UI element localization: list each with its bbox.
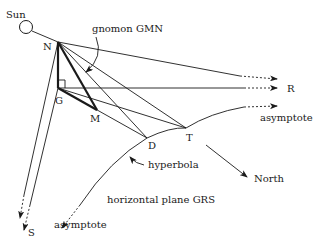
label-N: N [43, 41, 52, 52]
label-north: North [254, 173, 285, 184]
label-asymptote-left: asymptote [54, 219, 107, 230]
label-S: S [28, 227, 35, 238]
label-gnomon: gnomon GMN [92, 23, 163, 34]
label-G: G [55, 95, 63, 106]
sun-icon [20, 21, 33, 34]
line-G-S [24, 88, 58, 230]
label-M: M [90, 113, 100, 124]
diagram-canvas: Sun gnomon GMN N G M D T R asymptote hyp… [0, 0, 314, 245]
label-asymptote-right: asymptote [260, 112, 313, 123]
hyperbola-pointer-arrow [130, 157, 144, 165]
label-hyperbola: hyperbola [148, 159, 199, 170]
line-G-T [58, 88, 186, 128]
ray-N-top [58, 42, 277, 79]
label-plane: horizontal plane GRS [107, 194, 215, 205]
gnomon-triangle [58, 42, 97, 110]
label-D: D [148, 140, 156, 151]
line-N-T [58, 42, 186, 128]
line-N-S [20, 42, 58, 218]
label-T: T [186, 132, 193, 143]
label-R: R [287, 83, 295, 94]
north-arrow [206, 145, 247, 177]
label-sun: Sun [6, 9, 26, 20]
gnomon-pointer-arrow [86, 37, 98, 72]
